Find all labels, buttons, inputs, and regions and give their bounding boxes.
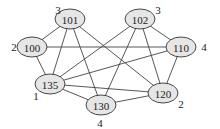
node-label: 110: [173, 42, 190, 54]
edge-135-120: [50, 84, 163, 93]
node-label: 130: [93, 100, 110, 112]
graph-canvas: 1013102310021104135113041202: [0, 0, 220, 129]
node-label: 120: [155, 88, 172, 100]
node-label: 102: [132, 14, 149, 26]
node-101: 1013: [55, 4, 85, 29]
graph-diagram: 1013102310021104135113041202: [0, 0, 220, 129]
edge-102-120: [140, 19, 163, 93]
node-weight-label: 4: [201, 41, 207, 53]
edge-110-135: [50, 47, 181, 84]
node-100: 1002: [11, 37, 47, 57]
edge-102-135: [50, 19, 140, 84]
node-weight-label: 2: [178, 98, 184, 110]
node-weight-label: 3: [55, 4, 61, 16]
node-weight-label: 3: [155, 4, 161, 16]
node-135: 1351: [33, 74, 65, 102]
node-130: 1304: [86, 95, 116, 129]
edge-102-130: [101, 19, 140, 105]
node-label: 101: [62, 14, 79, 26]
node-label: 135: [42, 79, 59, 91]
node-102: 1023: [125, 4, 161, 29]
node-label: 100: [24, 42, 41, 54]
node-weight-label: 4: [97, 117, 103, 129]
node-110: 1104: [166, 37, 207, 57]
node-120: 1202: [148, 83, 184, 110]
node-weight-label: 2: [11, 41, 17, 53]
node-weight-label: 1: [33, 90, 39, 102]
nodes-layer: 1013102310021104135113041202: [11, 4, 207, 129]
